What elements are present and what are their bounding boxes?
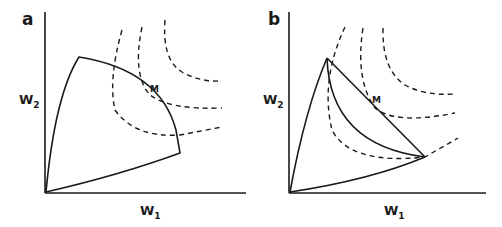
panel-b-letter: b bbox=[268, 9, 280, 29]
panel-a: a W2 W1 M bbox=[19, 9, 246, 221]
panel-a-y-label: W2 bbox=[19, 92, 40, 110]
panel-b-left-edge bbox=[290, 58, 327, 192]
panel-b-indifference-curve-3 bbox=[383, 28, 455, 94]
panel-a-indifference-curve-2 bbox=[138, 27, 222, 108]
panel-b: b W2 W1 M bbox=[263, 9, 486, 221]
panel-a-x-label: W1 bbox=[140, 203, 161, 221]
panel-b-x-label: W1 bbox=[384, 203, 405, 221]
panel-a-indifference-curve-3 bbox=[165, 20, 220, 81]
panel-a-indifference-curve-1 bbox=[113, 30, 222, 135]
panel-a-point-m: M bbox=[150, 84, 159, 94]
panel-b-bottom-edge bbox=[290, 157, 425, 192]
panel-b-y-label: W2 bbox=[263, 92, 284, 110]
panel-b-point-m: M bbox=[372, 95, 381, 105]
figure: a W2 W1 M b W2 W1 M bbox=[0, 0, 502, 227]
panel-b-indifference-curve-1 bbox=[328, 27, 458, 158]
panel-a-letter: a bbox=[22, 9, 33, 29]
